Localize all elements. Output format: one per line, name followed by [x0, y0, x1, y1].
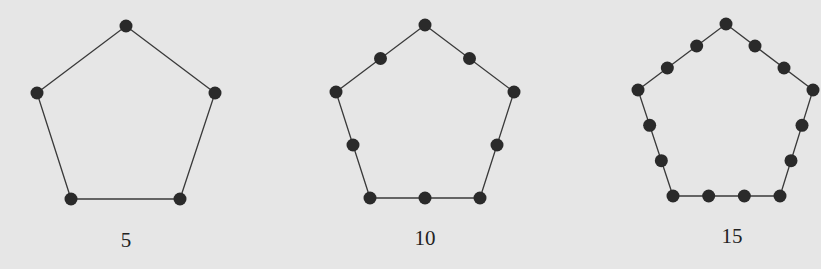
point-dot	[785, 154, 798, 167]
point-dot	[796, 119, 809, 132]
point-dot	[738, 190, 751, 203]
point-dot	[463, 52, 476, 65]
pentagon-outline	[336, 25, 514, 198]
point-dot	[749, 40, 762, 53]
point-dot	[643, 119, 656, 132]
point-dot	[347, 139, 360, 152]
point-dot	[31, 87, 44, 100]
point-set	[632, 18, 820, 203]
point-dot	[774, 190, 787, 203]
point-dot	[667, 190, 680, 203]
pentagon-15: 15	[632, 18, 820, 249]
pentagon-5: 5	[31, 20, 222, 253]
pentagon-label: 5	[121, 228, 132, 252]
pentagon-outline	[638, 24, 813, 196]
point-dot	[330, 86, 343, 99]
point-dot	[419, 19, 432, 32]
point-dot	[419, 192, 432, 205]
point-dot	[174, 193, 187, 206]
point-dot	[364, 192, 377, 205]
point-dot	[807, 84, 820, 97]
pentagon-outline	[37, 26, 215, 199]
point-dot	[778, 62, 791, 75]
pentagon-figure: 5 10 15	[0, 0, 821, 269]
point-dot	[655, 154, 668, 167]
point-set	[330, 19, 521, 205]
point-dot	[720, 18, 733, 31]
point-dot	[632, 84, 645, 97]
point-dot	[508, 86, 521, 99]
pentagon-10: 10	[330, 19, 521, 251]
pentagon-label: 15	[722, 224, 743, 248]
point-dot	[491, 139, 504, 152]
point-dot	[209, 87, 222, 100]
point-dot	[661, 62, 674, 75]
point-dot	[690, 40, 703, 53]
point-dot	[702, 190, 715, 203]
point-dot	[120, 20, 133, 33]
point-dot	[65, 193, 78, 206]
point-dot	[374, 52, 387, 65]
point-set	[31, 20, 222, 206]
pentagon-label: 10	[415, 226, 436, 250]
point-dot	[474, 192, 487, 205]
